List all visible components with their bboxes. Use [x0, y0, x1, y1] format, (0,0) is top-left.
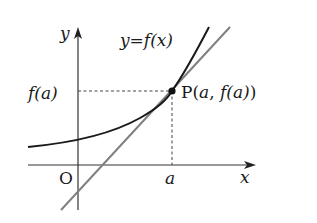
x-axis-label: x: [240, 167, 250, 187]
tangent-line: [61, 27, 230, 210]
origin-label: O: [59, 168, 73, 188]
point-p-label: P(a, f(a)): [181, 82, 256, 102]
curve-equation-label: y=f(x): [119, 30, 173, 50]
fa-label: f(a): [26, 83, 58, 103]
a-label: a: [165, 168, 175, 188]
y-axis-label: y: [59, 23, 70, 43]
tangent-diagram: y x O a f(a) y=f(x) P(a, f(a)): [0, 0, 317, 223]
point-p: [168, 87, 175, 94]
